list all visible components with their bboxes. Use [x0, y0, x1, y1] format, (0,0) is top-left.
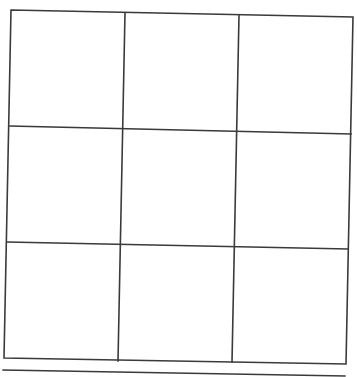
cell-r2-c1[interactable]	[10, 129, 120, 243]
cell-mark	[237, 134, 348, 247]
bottom-separator-line	[3, 370, 345, 376]
cell-mark	[123, 131, 234, 246]
cell-mark	[234, 250, 345, 362]
cell-r1-c1[interactable]	[12, 12, 122, 126]
cell-mark	[120, 247, 231, 360]
cell-mark	[10, 129, 120, 243]
cell-r3-c1[interactable]	[6, 245, 117, 358]
cell-r3-c3[interactable]	[234, 250, 345, 362]
cell-mark	[12, 12, 122, 126]
cell-r2-c3[interactable]	[237, 134, 348, 247]
cell-r1-c2[interactable]	[125, 14, 236, 129]
cell-mark	[239, 17, 350, 131]
cell-r3-c2[interactable]	[120, 247, 231, 360]
cell-r1-c3[interactable]	[239, 17, 350, 131]
cell-r2-c2[interactable]	[123, 131, 234, 246]
cell-mark	[125, 14, 236, 129]
cell-mark	[6, 245, 117, 358]
